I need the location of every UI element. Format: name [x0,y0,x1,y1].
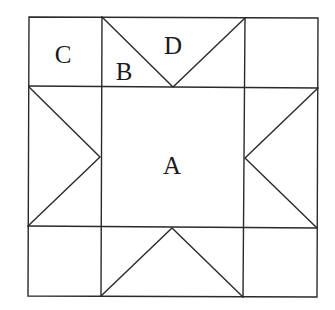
label-A: A [163,152,181,179]
grid-vertical-left [101,17,102,296]
label-B: B [116,58,133,85]
right-triangle [245,88,318,228]
label-D: D [164,32,182,59]
label-C: C [55,41,72,68]
quilt-block-diagram: C B D A [0,0,335,310]
left-triangle [28,87,100,226]
bottom-triangle [101,228,243,297]
